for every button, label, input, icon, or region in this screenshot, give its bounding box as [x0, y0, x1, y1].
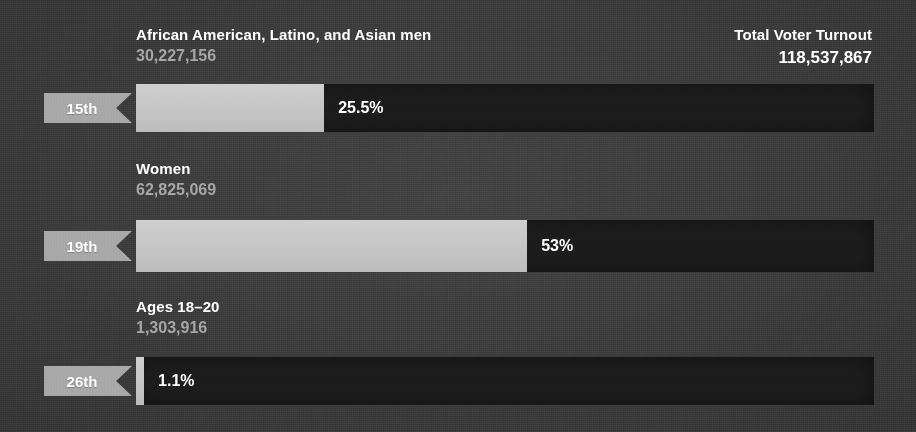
bar-percent-1: 25.5% [338, 99, 383, 117]
amendment-ribbon-label-3: 26th [67, 373, 98, 390]
group-count-2: 62,825,069 [136, 181, 216, 199]
group-count-3: 1,303,916 [136, 319, 220, 337]
bar-percent-2: 53% [541, 237, 573, 255]
group-name-2: Women [136, 160, 216, 177]
amendment-ribbon-label-1: 15th [67, 100, 98, 117]
bar-track-3: 1.1% [136, 357, 874, 405]
amendment-ribbon-label-2: 19th [67, 238, 98, 255]
bar-track-2: 53% [136, 220, 874, 272]
total-turnout-header: Total Voter Turnout 118,537,867 [734, 26, 872, 68]
amendment-ribbon-26th[interactable]: 26th [44, 366, 132, 396]
bar-fill-1 [136, 84, 324, 132]
bar-fill-2 [136, 220, 527, 272]
total-turnout-value: 118,537,867 [734, 48, 872, 68]
group-name-1: African American, Latino, and Asian men [136, 26, 431, 43]
group-label-3: Ages 18–20 1,303,916 [136, 298, 220, 337]
group-count-1: 30,227,156 [136, 47, 431, 65]
voter-turnout-infographic: Total Voter Turnout 118,537,867 African … [0, 0, 916, 432]
amendment-ribbon-15th[interactable]: 15th [44, 93, 132, 123]
bar-percent-3: 1.1% [158, 372, 194, 390]
bar-fill-3 [136, 357, 144, 405]
amendment-ribbon-19th[interactable]: 19th [44, 231, 132, 261]
bar-track-1: 25.5% [136, 84, 874, 132]
group-label-1: African American, Latino, and Asian men … [136, 26, 431, 65]
group-name-3: Ages 18–20 [136, 298, 220, 315]
group-label-2: Women 62,825,069 [136, 160, 216, 199]
total-turnout-label: Total Voter Turnout [734, 26, 872, 43]
